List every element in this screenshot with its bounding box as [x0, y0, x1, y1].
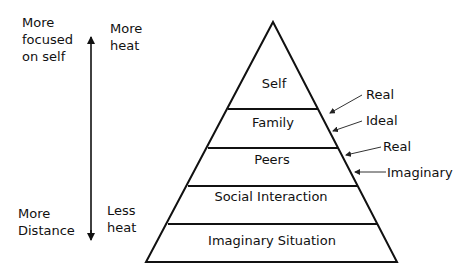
layer-self: Self — [262, 76, 286, 91]
more-heat-label: More heat — [110, 20, 142, 54]
less-heat-label: Less heat — [107, 202, 136, 236]
annotation-imaginary: Imaginary — [387, 164, 453, 181]
label-line: heat — [107, 219, 136, 236]
pyramid-outline — [146, 22, 397, 262]
more-distance-label: More Distance — [18, 205, 75, 239]
annotation-real-1: Real — [366, 86, 394, 103]
layer-peers: Peers — [254, 152, 290, 167]
label-line: heat — [110, 37, 142, 54]
label-line: More — [110, 20, 142, 37]
label-line: More — [22, 14, 73, 31]
label-line: focused — [22, 31, 73, 48]
layer-imaginary-situation: Imaginary Situation — [208, 233, 336, 248]
label-line: Distance — [18, 222, 75, 239]
layer-social-interaction: Social Interaction — [214, 189, 327, 204]
more-focused-label: More focused on self — [22, 14, 73, 65]
label-line: More — [18, 205, 75, 222]
label-line: Less — [107, 202, 136, 219]
layer-family: Family — [252, 115, 294, 130]
annotation-arrows — [330, 95, 386, 172]
label-line: on self — [22, 48, 73, 65]
annotation-real-2: Real — [383, 138, 411, 155]
annotation-ideal: Ideal — [366, 112, 398, 129]
